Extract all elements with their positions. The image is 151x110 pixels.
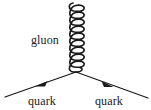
feynman-diagram-canvas: gluon quark quark: [0, 0, 151, 110]
arrowhead-left-icon: [36, 81, 48, 87]
gluon-propagator-coil: [69, 3, 84, 72]
feynman-diagram-figure: gluon quark quark: [0, 0, 151, 110]
gluon-helix-icon: [69, 3, 84, 72]
gluon-label: gluon: [31, 33, 59, 47]
quark-label-right: quark: [95, 94, 123, 108]
quark-label-left: quark: [28, 94, 56, 108]
